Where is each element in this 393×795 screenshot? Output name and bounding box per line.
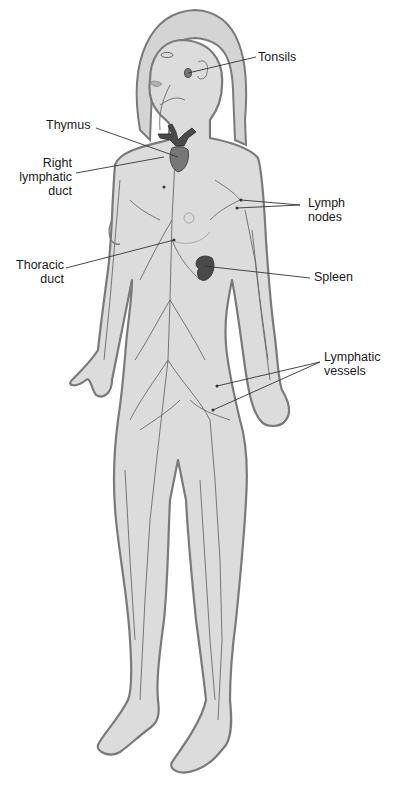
label-thoracic-duct: Thoracic duct [6,258,64,286]
label-lymph-nodes: Lymph nodes [308,196,345,224]
label-lymphatic-vessels: Lymphatic vessels [324,350,381,378]
label-tonsils: Tonsils [258,50,296,64]
label-spleen: Spleen [314,270,353,284]
label-thymus: Thymus [46,118,90,132]
label-right-lymphatic-duct: Right lymphatic duct [16,156,72,198]
